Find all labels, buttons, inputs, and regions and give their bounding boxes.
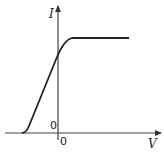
iv-curve bbox=[22, 38, 129, 133]
origin-label-x: 0 bbox=[60, 136, 67, 147]
x-axis-label: V bbox=[148, 138, 157, 150]
diagram-graphic bbox=[0, 0, 164, 154]
iv-characteristic-diagram: I V 0 0 bbox=[0, 0, 164, 154]
y-axis-label: I bbox=[49, 8, 54, 20]
origin-label-y: 0 bbox=[50, 120, 57, 131]
